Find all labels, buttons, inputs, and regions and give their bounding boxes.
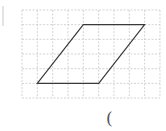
dashed-grid: [22, 10, 160, 98]
answer-parenthesis: (: [106, 108, 113, 128]
grid-figure: [0, 0, 166, 131]
